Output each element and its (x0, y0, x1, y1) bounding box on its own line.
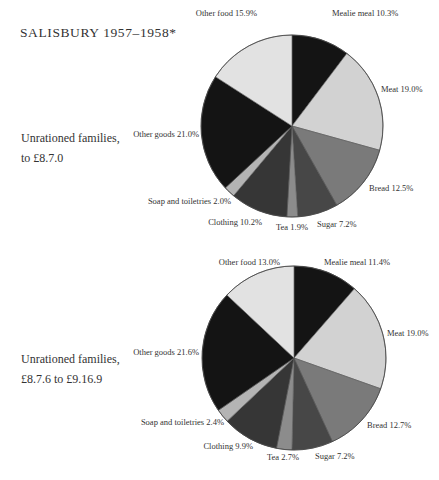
slice-label-mealie-meal: Mealie meal 10.3% (332, 8, 398, 18)
slice-label-other-goods: Other goods 21.0% (133, 129, 199, 139)
slice-label-clothing: Clothing 9.9% (203, 441, 253, 451)
slice-label-mealie-meal: Mealie meal 11.4% (324, 257, 390, 267)
slice-label-meat: Meat 19.0% (387, 328, 429, 338)
pie-chart-2: Mealie meal 11.4%Meat 19.0%Bread 12.7%Su… (133, 257, 428, 462)
slice-label-tea: Tea 2.7% (267, 452, 299, 462)
slice-label-other-food: Other food 13.0% (219, 257, 280, 267)
slice-label-sugar: Sugar 7.2% (317, 219, 357, 229)
slice-label-soap-and-toiletries: Soap and toiletries 2.4% (141, 417, 224, 427)
slice-label-other-goods: Other goods 21.6% (133, 347, 199, 357)
slice-label-clothing: Clothing 10.2% (208, 217, 262, 227)
slice-label-bread: Bread 12.5% (369, 183, 413, 193)
slice-label-sugar: Sugar 7.2% (315, 451, 355, 461)
pie-chart-1: Mealie meal 10.3%Meat 19.0%Bread 12.5%Su… (133, 8, 422, 232)
chart-canvas: Mealie meal 10.3%Meat 19.0%Bread 12.5%Su… (0, 0, 439, 480)
slice-label-tea: Tea 1.9% (276, 222, 308, 232)
slice-label-bread: Bread 12.7% (367, 420, 411, 430)
slice-label-soap-and-toiletries: Soap and toiletries 2.0% (148, 196, 231, 206)
slice-label-other-food: Other food 15.9% (196, 8, 257, 18)
slice-label-meat: Meat 19.0% (381, 84, 423, 94)
